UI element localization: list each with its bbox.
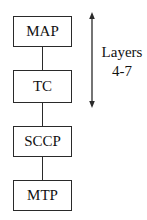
layer-box-sccp: SCCP — [13, 126, 72, 157]
connector-tc-sccp — [42, 103, 43, 126]
layer-label-sccp: SCCP — [24, 133, 61, 150]
connector-map-tc — [42, 47, 43, 70]
layer-label-map: MAP — [26, 23, 59, 40]
double-headed-arrow-icon — [86, 12, 98, 108]
layer-label-tc: TC — [33, 78, 52, 95]
layer-box-tc: TC — [13, 70, 72, 103]
bracket-label-layers: Layers — [98, 43, 146, 61]
bracket-label-range: 4-7 — [98, 62, 146, 80]
connector-sccp-mtp — [42, 157, 43, 180]
layer-box-map: MAP — [13, 16, 72, 47]
layer-label-mtp: MTP — [27, 187, 58, 204]
layer-box-mtp: MTP — [13, 180, 72, 211]
